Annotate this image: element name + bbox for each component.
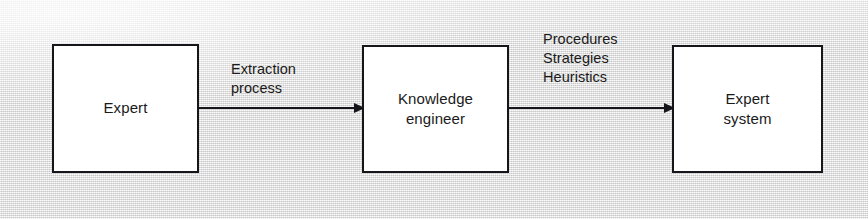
connector-expert-to-knowledge-engineer [198, 107, 364, 109]
node-expert-label: Expert [104, 98, 148, 118]
connector-knowledge-engineer-to-expert-system [508, 107, 674, 109]
node-expert-system-label: Expert system [723, 89, 771, 129]
diagram-canvas: Expert Extraction process Knowledge engi… [0, 0, 868, 219]
node-expert[interactable]: Expert [52, 44, 199, 173]
edge-label-knowledge-transfer: Procedures Strategies Heuristics [543, 30, 618, 87]
edge-label-extraction-process: Extraction process [231, 60, 296, 98]
node-knowledge-engineer[interactable]: Knowledge engineer [362, 45, 509, 173]
node-knowledge-engineer-label: Knowledge engineer [398, 89, 473, 129]
node-expert-system[interactable]: Expert system [672, 45, 823, 173]
